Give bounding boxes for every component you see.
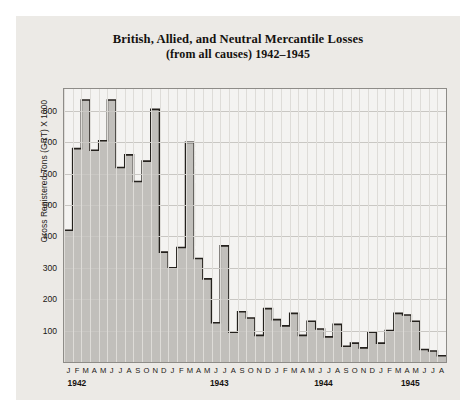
gridline-vertical xyxy=(194,89,195,362)
gridline-vertical xyxy=(429,89,430,362)
x-axis-month-label: F xyxy=(75,366,80,375)
x-axis-month-label: J xyxy=(318,366,322,375)
chart-subtitle: (from all causes) 1942–1945 xyxy=(16,47,460,62)
gridline-vertical xyxy=(351,89,352,362)
gridline-vertical xyxy=(377,89,378,362)
x-axis-month-label: M xyxy=(308,366,314,375)
x-axis-month-label: D xyxy=(369,366,374,375)
gridline-vertical xyxy=(168,89,169,362)
plot-area xyxy=(63,88,447,363)
gridline-vertical xyxy=(73,89,74,362)
x-axis-month-label: M xyxy=(291,366,297,375)
x-axis-month-label: M xyxy=(83,366,89,375)
gridline-vertical xyxy=(238,89,239,362)
x-axis-month-label: M xyxy=(187,366,193,375)
chart-title-block: British, Allied, and Neutral Mercantile … xyxy=(16,32,460,62)
x-axis-month-label: M xyxy=(412,366,418,375)
x-axis-month-label: J xyxy=(422,366,426,375)
y-axis-tick-label: 100 xyxy=(43,326,57,336)
x-axis-month-label: M xyxy=(395,366,401,375)
x-axis-month-label: A xyxy=(300,366,305,375)
plot-inner xyxy=(64,89,446,362)
y-axis-title: Gross Registered Tons (GRT) X 1000 xyxy=(39,71,49,271)
gridline-vertical xyxy=(272,89,273,362)
gridline-vertical xyxy=(437,89,438,362)
x-axis-month-label: S xyxy=(135,366,140,375)
x-axis-month-label: A xyxy=(196,366,201,375)
x-axis-month-label: F xyxy=(179,366,184,375)
x-axis-month-label: J xyxy=(275,366,279,375)
x-axis-year-label: 1943 xyxy=(210,378,229,388)
gridline-vertical xyxy=(142,89,143,362)
x-axis-month-label: M xyxy=(100,366,106,375)
x-axis-month-label: A xyxy=(231,366,236,375)
gridline-vertical xyxy=(333,89,334,362)
x-axis-month-label: A xyxy=(404,366,409,375)
x-axis-month-label: O xyxy=(144,366,150,375)
gridline-vertical xyxy=(324,89,325,362)
x-axis-month-label: J xyxy=(223,366,227,375)
gridline-vertical xyxy=(81,89,82,362)
x-axis-month-label: N xyxy=(257,366,262,375)
gridline-vertical xyxy=(394,89,395,362)
x-axis-month-label: S xyxy=(344,366,349,375)
x-axis-month-label: M xyxy=(204,366,210,375)
x-axis-month-label: J xyxy=(214,366,218,375)
gridline-vertical xyxy=(298,89,299,362)
gridline-vertical xyxy=(246,89,247,362)
gridline-vertical xyxy=(342,89,343,362)
gridline-vertical xyxy=(90,89,91,362)
x-axis-month-label: A xyxy=(127,366,132,375)
gridline-vertical xyxy=(177,89,178,362)
x-axis-month-label: J xyxy=(66,366,70,375)
gridline-vertical xyxy=(212,89,213,362)
gridline-vertical xyxy=(107,89,108,362)
x-axis-month-label: O xyxy=(352,366,358,375)
x-axis-month-label: D xyxy=(265,366,270,375)
gridline-vertical xyxy=(99,89,100,362)
x-axis-year-label: 1944 xyxy=(314,378,333,388)
gridline-vertical xyxy=(403,89,404,362)
gridline-vertical xyxy=(368,89,369,362)
gridline-vertical xyxy=(411,89,412,362)
x-axis-month-label: J xyxy=(379,366,383,375)
gridline-vertical xyxy=(151,89,152,362)
gridline-vertical xyxy=(281,89,282,362)
x-axis-month-label: D xyxy=(161,366,166,375)
gridline-vertical xyxy=(125,89,126,362)
gridline-vertical xyxy=(264,89,265,362)
gridline-vertical xyxy=(359,89,360,362)
gridline-vertical xyxy=(116,89,117,362)
x-axis-month-label: J xyxy=(171,366,175,375)
x-axis-month-label: A xyxy=(92,366,97,375)
gridline-vertical xyxy=(290,89,291,362)
gridline-vertical xyxy=(64,89,65,362)
gridline-vertical xyxy=(307,89,308,362)
gridline-vertical xyxy=(160,89,161,362)
gridline-vertical xyxy=(420,89,421,362)
gridline-vertical xyxy=(255,89,256,362)
y-axis-tick-label: 200 xyxy=(43,294,57,304)
x-axis-year-label: 1945 xyxy=(401,378,420,388)
x-axis-month-label: N xyxy=(361,366,366,375)
chart-card: British, Allied, and Neutral Mercantile … xyxy=(16,16,460,400)
gridline-vertical xyxy=(229,89,230,362)
chart-page: British, Allied, and Neutral Mercantile … xyxy=(0,0,476,416)
x-axis-year-label: 1942 xyxy=(68,378,87,388)
gridline-vertical xyxy=(385,89,386,362)
gridline-vertical xyxy=(186,89,187,362)
x-axis-month-label: A xyxy=(439,366,444,375)
gridline-vertical xyxy=(203,89,204,362)
x-axis-month-label: O xyxy=(248,366,254,375)
x-axis-month-label: S xyxy=(239,366,244,375)
x-axis-month-label: N xyxy=(152,366,157,375)
page-title: British, Allied, and Neutral Mercantile … xyxy=(16,32,460,47)
x-axis-month-label: A xyxy=(335,366,340,375)
x-axis-month-label: J xyxy=(110,366,114,375)
x-axis-month-label: F xyxy=(387,366,392,375)
gridline-vertical xyxy=(220,89,221,362)
x-axis-month-label: J xyxy=(327,366,331,375)
x-axis-month-label: F xyxy=(283,366,288,375)
gridline-vertical xyxy=(316,89,317,362)
x-axis-year-labels: 1942194319441945 xyxy=(63,378,447,392)
